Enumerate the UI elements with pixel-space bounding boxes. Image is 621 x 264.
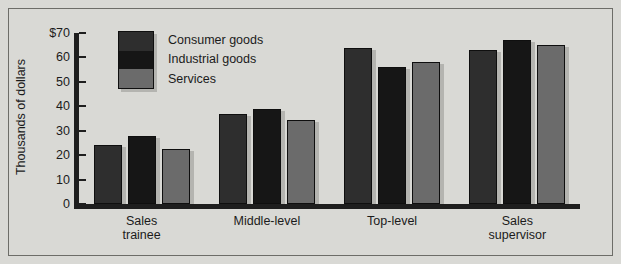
bar — [469, 50, 497, 204]
legend-swatch — [119, 32, 153, 51]
bars-layer — [0, 0, 621, 206]
legend-swatch-stack — [118, 31, 154, 89]
legend-label: Consumer goods — [168, 31, 263, 50]
chart-plot-area: $706050403020100 Thousands of dollars Sa… — [0, 0, 621, 264]
legend-label: Services — [168, 70, 263, 89]
x-axis-group-label: Sales trainee — [82, 214, 202, 243]
bar — [503, 40, 531, 204]
x-axis-group-label: Sales supervisor — [457, 214, 577, 243]
bar — [128, 136, 156, 204]
bar — [219, 114, 247, 204]
legend-swatch — [119, 51, 153, 70]
x-axis-group-label: Top-level — [332, 214, 452, 228]
bar — [412, 62, 440, 204]
bar — [537, 45, 565, 204]
chart-legend: Consumer goodsIndustrial goodsServices — [118, 31, 263, 89]
x-axis-group-label: Middle-level — [207, 214, 327, 228]
legend-label: Industrial goods — [168, 50, 263, 69]
bar — [162, 149, 190, 204]
bar — [378, 67, 406, 204]
bar — [94, 145, 122, 204]
bar — [344, 48, 372, 204]
chart-figure: $706050403020100 Thousands of dollars Sa… — [0, 0, 621, 264]
legend-label-stack: Consumer goodsIndustrial goodsServices — [168, 31, 263, 89]
legend-swatch — [119, 69, 153, 88]
bar — [287, 120, 315, 204]
bar — [253, 109, 281, 204]
